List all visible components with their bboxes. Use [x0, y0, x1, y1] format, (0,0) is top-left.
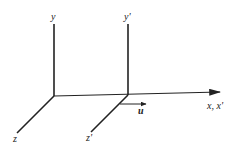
z-prime-label: z' [86, 133, 92, 143]
x-axis-label: x, x' [207, 101, 223, 111]
z-label: z [13, 134, 17, 144]
y-label: y [51, 12, 55, 22]
z-prime-axis [91, 95, 128, 132]
frames-diagram [0, 0, 235, 157]
y-prime-label: y' [124, 12, 131, 22]
z-axis [17, 96, 54, 133]
velocity-label: u [138, 106, 144, 116]
x-axis [54, 92, 220, 96]
